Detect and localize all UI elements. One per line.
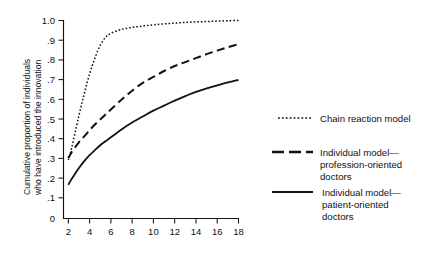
legend-label-line: doctors	[320, 171, 352, 182]
y-axis-tick-labels: 1.0 .9 .8 .7 .6 .5 .4 .3 .2 .1 0	[42, 15, 55, 224]
y-axis-ticks	[59, 21, 64, 198]
x-axis-tick-labels: 2 4 6 8 10 12 14 16 18	[66, 226, 244, 237]
legend-label-line: doctors	[322, 211, 354, 222]
y-tick-label: .1	[47, 192, 55, 203]
axis-lines	[64, 21, 239, 219]
x-tick-label: 14	[191, 226, 202, 237]
x-tick-label: 4	[87, 226, 92, 237]
legend-label-line: patient-oriented	[322, 199, 389, 210]
y-tick-label: .6	[47, 94, 55, 105]
y-tick-label: .2	[47, 173, 55, 184]
x-tick-label: 2	[66, 226, 71, 237]
x-tick-label: 8	[129, 226, 134, 237]
x-tick-label: 12	[169, 226, 180, 237]
legend-label-line: Individual model—	[322, 187, 401, 198]
legend-item-profession-oriented[interactable]: Individual model— profession-oriented do…	[272, 147, 402, 182]
legend-label-line: profession-oriented	[320, 159, 402, 170]
y-axis-title: Cumulative proportion of individuals who…	[22, 59, 43, 196]
series-line-patient-oriented	[68, 80, 238, 185]
x-axis-ticks	[68, 219, 238, 224]
y-tick-label: .8	[47, 54, 55, 65]
y-axis-title-line-2: who have introduced the innovation	[33, 60, 43, 196]
legend-item-patient-oriented[interactable]: Individual model— patient-oriented docto…	[272, 187, 401, 222]
chart-figure: Cumulative proportion of individuals who…	[0, 0, 432, 262]
x-tick-label: 10	[148, 226, 159, 237]
chart-svg: Cumulative proportion of individuals who…	[0, 0, 432, 262]
series-line-chain-reaction-model	[68, 21, 238, 161]
chart-legend: Chain reaction model Individual model— p…	[272, 113, 411, 222]
x-tick-label: 16	[212, 226, 223, 237]
series-group	[68, 21, 238, 185]
legend-label-line: Chain reaction model	[320, 113, 411, 124]
legend-label-line: Individual model—	[320, 147, 399, 158]
y-tick-label: 1.0	[42, 15, 55, 26]
y-tick-label: .9	[47, 35, 55, 46]
y-tick-label: .3	[47, 153, 55, 164]
y-tick-label: .7	[47, 74, 55, 85]
y-tick-label: .4	[47, 133, 55, 144]
x-tick-label: 18	[233, 226, 244, 237]
y-axis-title-line-1: Cumulative proportion of individuals	[22, 59, 32, 195]
y-tick-label: .5	[47, 114, 55, 125]
y-tick-label: 0	[50, 213, 55, 224]
legend-item-chain-reaction-model[interactable]: Chain reaction model	[278, 113, 411, 124]
x-tick-label: 6	[108, 226, 113, 237]
